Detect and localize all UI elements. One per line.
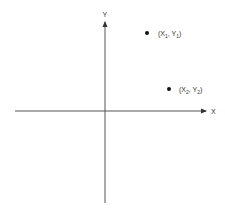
point-2-label: (X2, Y2) — [179, 86, 202, 95]
coordinate-plane: X Y (X1, Y1) (X2, Y2) — [0, 0, 225, 210]
point-1-marker — [145, 31, 149, 35]
point-2-marker — [167, 87, 171, 91]
x-axis-label: X — [211, 108, 216, 115]
point-1-label: (X1, Y1) — [158, 30, 181, 39]
y-axis-label: Y — [103, 11, 108, 18]
